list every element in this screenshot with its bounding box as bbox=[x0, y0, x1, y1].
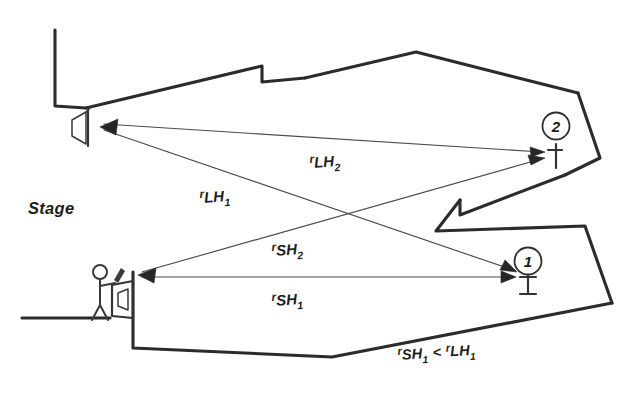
main-floor-outline bbox=[22, 200, 612, 357]
stage-monitor-cone bbox=[118, 289, 128, 310]
ray-paths bbox=[100, 119, 545, 283]
talker-head bbox=[93, 265, 107, 279]
svg-text:rSH2: rSH2 bbox=[271, 239, 304, 263]
r-lh1-main: LH bbox=[203, 187, 225, 205]
marker-position-1: 1 bbox=[515, 248, 542, 275]
r-lh2-subscript: 2 bbox=[333, 161, 341, 173]
ray-sh2-arrowhead bbox=[528, 155, 545, 165]
balcony-soffit-step bbox=[86, 66, 305, 108]
svg-text:rSH1: rSH1 bbox=[271, 289, 304, 313]
diagram-canvas: 2 1 Stage rLH2 rLH1 rSH2 bbox=[0, 0, 630, 393]
marker-1-label: 1 bbox=[524, 253, 532, 270]
overhead-loudspeaker-icon bbox=[72, 106, 92, 146]
marker-2-label: 2 bbox=[551, 118, 561, 135]
ray-lh1 bbox=[104, 130, 513, 270]
svg-text:rLH2: rLH2 bbox=[309, 151, 341, 175]
r-lh2-main: LH bbox=[313, 152, 335, 170]
ineq-left-subscript: 1 bbox=[422, 354, 429, 365]
r-lh1-subscript: 1 bbox=[224, 196, 231, 208]
ineq-left-main: SH bbox=[401, 345, 423, 362]
r-sh2-subscript: 2 bbox=[296, 249, 304, 261]
loudspeaker-cone bbox=[72, 112, 86, 144]
ineq-right-subscript: 1 bbox=[470, 351, 477, 362]
mic-2-glyph bbox=[548, 144, 562, 168]
main-floor-rake bbox=[133, 272, 612, 357]
ineq-operator: < bbox=[432, 344, 442, 361]
marker-position-2: 2 bbox=[543, 113, 570, 140]
r-sh1-main: SH bbox=[275, 290, 298, 308]
ray-lh2 bbox=[104, 124, 542, 152]
upper-balcony-outline bbox=[55, 30, 600, 215]
r-sh2-main: SH bbox=[275, 240, 298, 258]
stage-talker-figure bbox=[92, 265, 133, 320]
label-r-sh2: rSH2 bbox=[271, 239, 304, 263]
ray-sh1-arrowhead bbox=[501, 271, 516, 283]
r-sh1-subscript: 1 bbox=[297, 299, 304, 311]
loudspeaker-arrowhead bbox=[100, 119, 118, 135]
handheld-microphone bbox=[114, 268, 125, 283]
stage-label: Stage bbox=[28, 199, 74, 217]
balcony-floor bbox=[460, 175, 565, 215]
ray-sh2 bbox=[142, 159, 541, 272]
balcony-roof bbox=[305, 52, 578, 93]
stage-monitor-box bbox=[112, 281, 133, 318]
svg-text:rLH1: rLH1 bbox=[199, 186, 231, 210]
label-r-lh2: rLH2 bbox=[309, 151, 341, 175]
label-r-sh1: rSH1 bbox=[271, 289, 304, 313]
upper-left-wall bbox=[55, 30, 86, 108]
mic-symbol-position-2 bbox=[548, 144, 562, 168]
acoustics-diagram: 2 1 Stage rLH2 rLH1 rSH2 bbox=[0, 0, 630, 393]
balcony-right-edge bbox=[565, 93, 600, 175]
label-r-lh1: rLH1 bbox=[199, 186, 231, 210]
ineq-right-main: LH bbox=[450, 342, 471, 359]
